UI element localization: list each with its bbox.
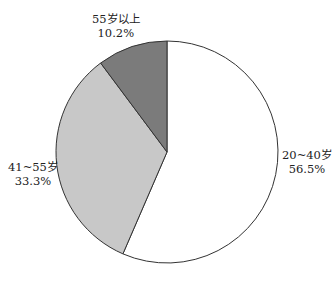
- slice-label-55-plus: 55岁以上 10.2%: [92, 12, 140, 40]
- pie-chart: [0, 0, 334, 284]
- slice-name: 55岁以上: [92, 12, 140, 26]
- slice-name: 20~40岁: [282, 148, 332, 162]
- slice-name: 41~55岁: [8, 160, 58, 174]
- slice-label-20-40: 20~40岁 56.5%: [282, 148, 332, 176]
- slice-percent: 33.3%: [8, 174, 58, 188]
- slice-label-41-55: 41~55岁 33.3%: [8, 160, 58, 188]
- slice-percent: 56.5%: [282, 162, 332, 176]
- slice-percent: 10.2%: [92, 26, 140, 40]
